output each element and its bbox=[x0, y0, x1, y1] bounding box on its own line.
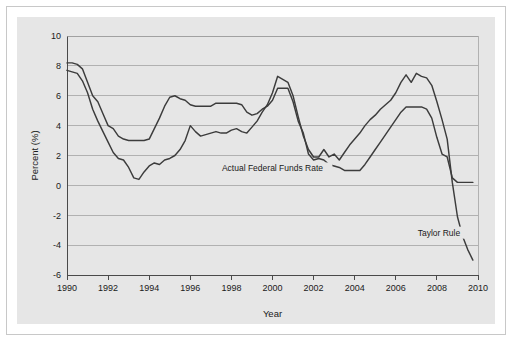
x-tick-labels: 1990199219941996199820002002200420062008… bbox=[57, 283, 488, 293]
x-tick-label: 2000 bbox=[262, 283, 282, 293]
line-chart: 1086420-2-4-6 19901992199419961998200020… bbox=[17, 17, 495, 324]
y-tick-label: 4 bbox=[56, 121, 61, 131]
x-tick-label: 2004 bbox=[345, 283, 365, 293]
x-tick-label: 1990 bbox=[57, 283, 77, 293]
y-tick-label: -2 bbox=[53, 211, 61, 221]
x-tick-label: 2008 bbox=[427, 283, 447, 293]
x-tick-marks bbox=[67, 275, 478, 280]
figure-root: 1086420-2-4-6 19901992199419961998200020… bbox=[0, 0, 513, 342]
y-tick-label: 8 bbox=[56, 61, 61, 71]
grid-lines bbox=[67, 36, 478, 275]
x-tick-label: 2006 bbox=[386, 283, 406, 293]
chart-plate: 1086420-2-4-6 19901992199419961998200020… bbox=[17, 17, 495, 324]
y-tick-labels: 1086420-2-4-6 bbox=[51, 31, 61, 280]
x-tick-label: 1992 bbox=[98, 283, 118, 293]
x-tick-label: 2010 bbox=[468, 283, 488, 293]
x-tick-label: 1994 bbox=[139, 283, 159, 293]
y-axis-title: Percent (%) bbox=[29, 130, 40, 180]
series-annotations: Actual Federal Funds RateTaylor Rule bbox=[213, 162, 467, 238]
x-tick-label: 1996 bbox=[180, 283, 200, 293]
y-tick-label: 6 bbox=[56, 91, 61, 101]
y-tick-label: 10 bbox=[51, 31, 61, 41]
y-tick-label: 0 bbox=[56, 181, 61, 191]
y-tick-label: -6 bbox=[53, 270, 61, 280]
series-annotation-label: Taylor Rule bbox=[418, 228, 461, 238]
y-tick-label: -4 bbox=[53, 240, 61, 250]
x-axis-title: Year bbox=[263, 308, 282, 319]
y-tick-label: 2 bbox=[56, 151, 61, 161]
x-tick-label: 2002 bbox=[304, 283, 324, 293]
x-tick-label: 1998 bbox=[221, 283, 241, 293]
series-annotation-label: Actual Federal Funds Rate bbox=[222, 163, 323, 173]
